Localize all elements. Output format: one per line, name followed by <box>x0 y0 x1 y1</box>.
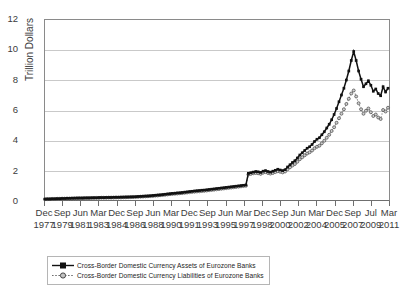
x-axis-tick <box>226 201 227 206</box>
series-layer <box>45 20 389 200</box>
chart-legend: Cross-Border Domestic Currency Assets of… <box>47 256 270 285</box>
series-marker <box>61 197 64 200</box>
x-axis-tick <box>80 201 81 206</box>
series-marker <box>220 187 223 190</box>
series-line <box>45 52 388 200</box>
series-marker <box>328 133 331 136</box>
series-marker <box>306 147 309 150</box>
series-marker <box>115 196 118 199</box>
legend-swatch-solid-square-icon <box>52 261 74 270</box>
series-marker <box>134 195 137 198</box>
series-marker <box>78 197 81 200</box>
series-marker <box>66 197 69 200</box>
series-marker <box>232 185 235 188</box>
series-marker <box>384 110 387 113</box>
series-marker <box>198 189 201 192</box>
series-marker <box>374 113 377 116</box>
series-marker <box>125 196 128 199</box>
series-marker <box>301 151 304 154</box>
series-marker <box>362 85 365 88</box>
y-axis-tick-label: 0 <box>0 196 18 206</box>
series-marker <box>360 108 363 111</box>
series-marker <box>129 196 132 199</box>
x-axis-tick <box>244 201 245 206</box>
series-marker <box>377 92 380 95</box>
series-marker <box>284 168 287 171</box>
series-marker <box>269 171 272 174</box>
series-marker <box>161 193 164 196</box>
series-marker <box>178 191 181 194</box>
series-marker <box>203 189 206 192</box>
series-marker <box>68 197 71 200</box>
series-marker <box>235 185 238 188</box>
series-marker <box>281 169 284 172</box>
plot-area <box>44 19 390 201</box>
series-marker <box>164 193 167 196</box>
series-marker <box>323 130 326 133</box>
series-marker <box>71 197 74 200</box>
series-marker <box>181 191 184 194</box>
series-marker <box>149 194 152 197</box>
series-marker <box>49 198 52 201</box>
series-marker <box>267 170 270 173</box>
series-marker <box>169 192 172 195</box>
x-axis-tick <box>189 201 190 206</box>
x-axis-tick <box>171 201 172 206</box>
series-marker <box>83 197 86 200</box>
legend-swatch-dotted-circle-icon <box>52 271 74 280</box>
series-marker <box>340 112 343 115</box>
x-axis-tick <box>298 201 299 206</box>
x-axis-tick <box>98 201 99 206</box>
series-marker <box>56 197 59 200</box>
series-marker <box>308 145 311 148</box>
x-axis-tick <box>135 201 136 206</box>
series-marker <box>372 90 375 93</box>
series-marker <box>85 197 88 200</box>
y-axis-tick-label: 10 <box>0 44 18 54</box>
series-marker <box>355 59 358 62</box>
series-marker <box>137 195 140 198</box>
series-marker <box>387 106 390 109</box>
series-marker <box>335 121 338 124</box>
series-marker <box>303 149 306 152</box>
series-marker <box>76 197 79 200</box>
series-marker <box>350 92 353 95</box>
series-marker <box>328 123 331 126</box>
series-marker <box>320 142 323 145</box>
series-marker <box>296 157 299 160</box>
y-axis-tick-label: 6 <box>0 105 18 115</box>
x-axis-tick <box>353 201 354 206</box>
legend-item-assets: Cross-Border Domestic Currency Assets of… <box>52 261 264 270</box>
series-marker <box>100 196 103 199</box>
series-marker <box>367 107 370 110</box>
series-marker <box>257 170 260 173</box>
series-marker <box>384 91 387 94</box>
series-marker <box>88 197 91 200</box>
series-marker <box>132 196 135 199</box>
series-assets <box>44 50 390 200</box>
series-marker <box>252 171 255 174</box>
series-marker <box>105 196 108 199</box>
series-marker <box>102 196 105 199</box>
series-marker <box>247 172 250 175</box>
series-marker <box>188 190 191 193</box>
series-marker <box>117 196 120 199</box>
series-marker <box>345 79 348 82</box>
series-marker <box>120 196 123 199</box>
series-marker <box>318 144 321 147</box>
series-marker <box>171 192 174 195</box>
series-marker <box>333 113 336 116</box>
series-marker <box>347 70 350 73</box>
series-marker <box>321 133 324 136</box>
series-marker <box>330 118 333 121</box>
series-marker <box>196 189 199 192</box>
x-axis-tick <box>316 201 317 206</box>
series-marker <box>176 192 179 195</box>
series-marker <box>90 196 93 199</box>
series-marker <box>259 171 262 174</box>
series-marker <box>227 186 230 189</box>
series-marker <box>230 185 233 188</box>
series-marker <box>110 196 113 199</box>
x-axis-tick <box>262 201 263 206</box>
series-marker <box>151 194 154 197</box>
